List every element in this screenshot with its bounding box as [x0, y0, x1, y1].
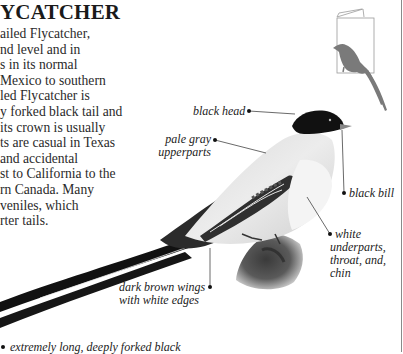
label-black-head: black head — [193, 105, 245, 118]
label-white-line4: chin — [330, 267, 351, 280]
label-pale-gray-line2: upperparts — [150, 146, 211, 159]
label-black-bill: black bill — [349, 187, 394, 200]
label-tail: extremely long, deeply forked black — [10, 341, 180, 354]
label-wings-line2: with white edges — [119, 294, 199, 307]
book-with-bird-silhouette-icon — [333, 9, 387, 111]
